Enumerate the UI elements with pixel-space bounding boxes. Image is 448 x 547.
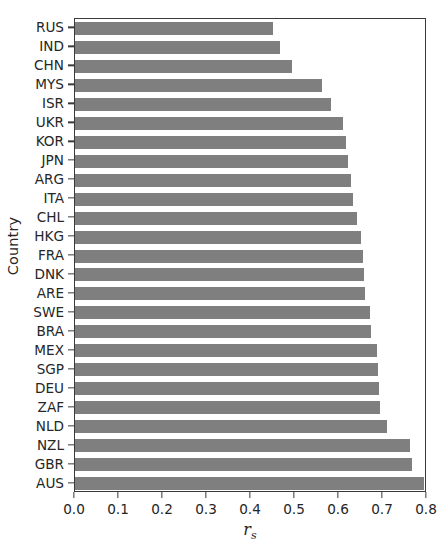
- bar-fill: [75, 306, 370, 319]
- x-axis-title-base: r: [243, 520, 251, 539]
- y-tick-label-fra: FRA: [38, 247, 64, 263]
- bar-fill: [75, 98, 331, 111]
- x-tick-label-2: 0.2: [151, 501, 173, 517]
- bar-chart-figure: Country RUSINDCHNMYSISRUKRKORJPNARGITACH…: [0, 0, 448, 547]
- y-tick-label-chn: CHN: [34, 57, 64, 73]
- x-tick-mark-0: [73, 492, 74, 498]
- bar-fill: [75, 287, 365, 300]
- y-tick-label-sgp: SGP: [37, 361, 64, 377]
- y-tick-label-jpn: JPN: [42, 152, 64, 168]
- bar-hkg: [75, 231, 361, 244]
- y-tick-label-zaf: ZAF: [38, 399, 64, 415]
- bar-fra: [75, 250, 363, 263]
- bar-arg: [75, 174, 351, 187]
- x-tick-label-1: 0.1: [107, 501, 129, 517]
- y-tick-label-isr: ISR: [42, 95, 64, 111]
- x-tick-mark-4: [249, 492, 250, 498]
- y-axis-tick-group: RUSINDCHNMYSISRUKRKORJPNARGITACHLHKGFRAD…: [0, 0, 74, 547]
- x-tick-label-5: 0.5: [283, 501, 305, 517]
- bar-ukr: [75, 117, 343, 130]
- y-tick-label-dnk: DNK: [34, 266, 64, 282]
- bar-kor: [75, 136, 346, 149]
- y-tick-label-ukr: UKR: [36, 114, 64, 130]
- x-tick-mark-1: [117, 492, 118, 498]
- bar-bra: [75, 325, 371, 338]
- x-tick-mark-7: [381, 492, 382, 498]
- bar-fill: [75, 344, 377, 357]
- bar-fill: [75, 231, 361, 244]
- bar-fill: [75, 212, 357, 225]
- bar-fill: [75, 41, 280, 54]
- bar-isr: [75, 98, 331, 111]
- y-tick-label-rus: RUS: [36, 19, 64, 35]
- x-tick-label-3: 0.3: [195, 501, 217, 517]
- y-tick-label-ita: ITA: [43, 190, 64, 206]
- bar-zaf: [75, 401, 380, 414]
- bar-fill: [75, 117, 343, 130]
- x-tick-mark-8: [425, 492, 426, 498]
- bar-fill: [75, 268, 364, 281]
- y-tick-label-mys: MYS: [35, 76, 64, 92]
- bar-chn: [75, 60, 292, 73]
- bar-fill: [75, 22, 273, 35]
- bar-fill: [75, 193, 353, 206]
- bar-fill: [75, 477, 424, 490]
- bar-deu: [75, 382, 379, 395]
- bar-fill: [75, 155, 348, 168]
- x-tick-mark-3: [205, 492, 206, 498]
- bar-jpn: [75, 155, 348, 168]
- bar-ind: [75, 41, 280, 54]
- x-tick-mark-5: [293, 492, 294, 498]
- x-tick-label-0: 0.0: [63, 501, 85, 517]
- y-tick-label-kor: KOR: [36, 133, 64, 149]
- y-tick-label-swe: SWE: [33, 304, 64, 320]
- bar-chl: [75, 212, 357, 225]
- x-tick-label-4: 0.4: [239, 501, 261, 517]
- bar-gbr: [75, 458, 412, 471]
- bar-fill: [75, 250, 363, 263]
- bar-are: [75, 287, 365, 300]
- bar-aus: [75, 477, 424, 490]
- bar-fill: [75, 382, 379, 395]
- y-tick-label-arg: ARG: [35, 171, 64, 187]
- y-tick-label-are: ARE: [37, 285, 64, 301]
- bar-swe: [75, 306, 370, 319]
- bar-fill: [75, 401, 380, 414]
- bar-nzl: [75, 439, 410, 452]
- bar-fill: [75, 325, 371, 338]
- x-tick-label-7: 0.7: [371, 501, 393, 517]
- x-tick-mark-6: [337, 492, 338, 498]
- y-tick-label-aus: AUS: [36, 475, 64, 491]
- x-tick-label-6: 0.6: [327, 501, 349, 517]
- bar-dnk: [75, 268, 364, 281]
- y-tick-label-nld: NLD: [36, 418, 64, 434]
- y-tick-label-bra: BRA: [36, 323, 64, 339]
- y-tick-label-nzl: NZL: [37, 437, 64, 453]
- bar-mys: [75, 79, 322, 92]
- bar-fill: [75, 79, 322, 92]
- bar-fill: [75, 458, 412, 471]
- bar-ita: [75, 193, 353, 206]
- y-tick-label-ind: IND: [39, 38, 64, 54]
- bar-fill: [75, 420, 387, 433]
- x-tick-label-8: 0.8: [415, 501, 437, 517]
- x-tick-mark-2: [161, 492, 162, 498]
- bar-fill: [75, 174, 351, 187]
- y-tick-label-mex: MEX: [34, 342, 64, 358]
- bar-fill: [75, 439, 410, 452]
- bar-fill: [75, 363, 378, 376]
- y-tick-label-chl: CHL: [37, 209, 64, 225]
- x-axis-title-subscript: s: [251, 529, 257, 542]
- y-tick-label-deu: DEU: [35, 380, 64, 396]
- plot-area: [74, 18, 426, 492]
- y-tick-label-gbr: GBR: [35, 456, 64, 472]
- bar-sgp: [75, 363, 378, 376]
- x-axis-title: rs: [74, 520, 426, 542]
- y-tick-label-hkg: HKG: [34, 228, 64, 244]
- bar-nld: [75, 420, 387, 433]
- bar-rus: [75, 22, 273, 35]
- bar-fill: [75, 60, 292, 73]
- bar-mex: [75, 344, 377, 357]
- bar-fill: [75, 136, 346, 149]
